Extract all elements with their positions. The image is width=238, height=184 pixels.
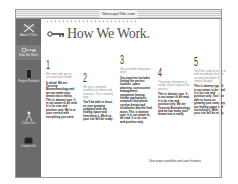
scrollbar[interactable] (219, 19, 221, 177)
step-intro: We assemble the project team. (120, 68, 152, 75)
step-column: 1 We meet with you to ascertain your nee… (46, 59, 78, 119)
browser-window: NetscapeTitle.com About TCDin How We Wor… (15, 9, 222, 178)
step-intro: You'll be ready to move in with everythi… (194, 70, 226, 83)
step-number: 4 (158, 67, 177, 79)
sidebar-item-label: Client List (16, 122, 41, 126)
portfolio-link[interactable]: See project portfolio and case histories (149, 159, 201, 163)
step-column: 4 The project becomes a reality: every s… (158, 67, 190, 117)
main-content: How We Work. 1 We meet with you to ascer… (42, 19, 221, 177)
step-column: 5 You'll be ready to move in with everyt… (194, 56, 226, 116)
sidebar-nav: About TCDin How We Work Project Portfoli… (16, 19, 41, 177)
phone-icon (24, 137, 33, 144)
sidebar-item-contact-us[interactable]: Contact Us (16, 137, 41, 149)
sidebar-item-about[interactable]: About TCDin (16, 23, 41, 38)
step-body: This is dummy type. It is not meant to b… (158, 93, 190, 117)
window-title: NetscapeTitle.com (99, 10, 138, 18)
sidebar-item-label: About TCDin (16, 34, 41, 38)
step-column: 2 We get a complete schedule of events a… (83, 72, 115, 122)
book-icon (26, 69, 32, 79)
title-bar[interactable]: NetscapeTitle.com (16, 10, 221, 19)
sidebar-item-how-we-work[interactable]: How We Work (16, 45, 41, 60)
key-icon (47, 30, 65, 38)
logo-x-icon (22, 23, 36, 33)
page-title: How We Work. (67, 27, 150, 41)
step-intro: We get a complete schedule of events and… (83, 86, 115, 99)
sidebar-item-client-list[interactable]: Client List (16, 111, 41, 126)
step-body: In detail. We are Turnstep Biomechanolog… (46, 82, 78, 119)
sidebar-item-label: Contact Us (16, 145, 41, 149)
dotted-rule (47, 21, 137, 22)
step-body: This is dummy type. It is not meant to b… (194, 85, 226, 116)
step-number: 3 (120, 54, 139, 66)
step-column: 3 We assemble the project team. Our expe… (120, 54, 152, 124)
page-heading: How We Work. (47, 27, 150, 41)
sidebar-item-label: Project Portfolio (16, 80, 41, 84)
step-body: Our expertise includes finding the perfe… (120, 77, 152, 125)
step-body: You'll be able to focus on your growing … (83, 101, 115, 121)
step-intro: The project becomes a reality: every sta… (158, 81, 190, 91)
person-icon (25, 111, 33, 121)
step-number: 5 (194, 56, 213, 68)
step-number: 1 (46, 59, 65, 71)
sidebar-item-project-portfolio[interactable]: Project Portfolio (16, 69, 41, 84)
sidebar-item-label: How We Work (16, 54, 41, 58)
step-number: 2 (83, 72, 102, 84)
step-intro: We meet with you to ascertain your needs… (46, 73, 78, 80)
